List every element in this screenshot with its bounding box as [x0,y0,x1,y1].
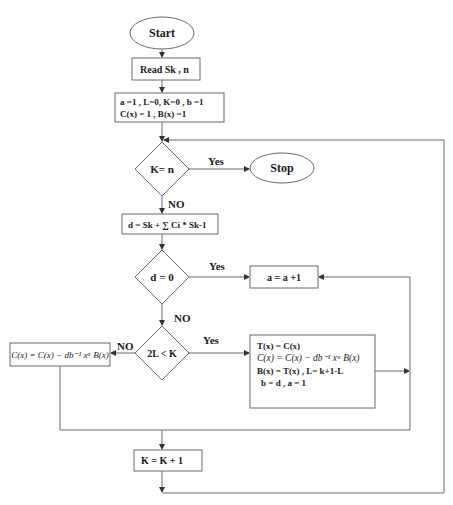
inc-k-label: K = K + 1 [141,455,183,466]
update-all-line2: C(x) = C(x) − db⁻¹ xᵃ B(x) [257,353,360,364]
update-c-label: C(x) = C(x) − db⁻¹ xᵃ B(x) [11,350,108,360]
update-c-node: C(x) = C(x) − db⁻¹ xᵃ B(x) [10,343,110,366]
discrepancy-label: d = Sk + ∑ Ci * Sk-1 [128,220,207,230]
read-input-node: Read Sk , n [132,58,200,80]
stop-node: Stop [250,153,314,183]
decision-d-equals-zero: d = 0 [135,250,189,304]
check-d-label: d = 0 [150,271,174,283]
edge-l-no-label: NO [117,340,134,352]
edge-k-yes-label: Yes [208,155,225,167]
update-all-node: T(x) = C(x) C(x) = C(x) − db⁻¹ xᵃ B(x) B… [250,335,375,408]
start-label: Start [149,26,175,40]
inc-a-label: a = a +1 [267,272,301,283]
flowchart-svg: Start Read Sk , n a =1 , L=0, K=0 , b =1… [0,0,453,505]
increment-a-node: a = a +1 [250,266,318,288]
decision-k-equals-n: K= n [135,142,189,196]
start-node: Start [130,17,194,49]
read-label: Read Sk , n [140,64,189,75]
update-all-line1: T(x) = C(x) [257,341,300,351]
edge-d-yes-label: Yes [209,260,226,272]
decision-2l-less-than-k: 2L < K [135,326,189,380]
init-line2: C(x) = 1 , B(x) =1 [120,109,187,119]
flowchart-canvas: Start Read Sk , n a =1 , L=0, K=0 , b =1… [0,0,453,505]
check-k-label: K= n [150,163,174,175]
edge-k-no-label: NO [168,198,185,210]
edge-d-no-label: NO [174,312,191,324]
init-node: a =1 , L=0, K=0 , b =1 C(x) = 1 , B(x) =… [115,93,224,122]
check-l-label: 2L < K [147,348,177,359]
stop-label: Stop [270,161,294,175]
increment-k-node: K = K + 1 [134,450,202,471]
edge-l-yes-label: Yes [203,334,220,346]
update-all-line4: b = d , a = 1 [261,378,307,388]
init-line1: a =1 , L=0, K=0 , b =1 [120,97,204,107]
discrepancy-node: d = Sk + ∑ Ci * Sk-1 [122,214,218,234]
update-all-line3: B(x) = T(x) , L= k+1-L [257,366,343,376]
